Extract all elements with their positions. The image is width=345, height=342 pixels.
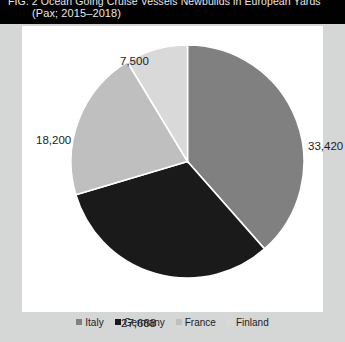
chart-title-line-2: (Pax; 2015–2018) [32, 7, 121, 20]
legend-label-finland: Finland [236, 317, 269, 328]
slice-label-france: 18,200 [36, 134, 71, 147]
pie-graphic [71, 45, 304, 278]
chart-panel: 7,500 33,420 18,200 27,688 [22, 26, 323, 312]
chart-title-line-1: FIG. 2 Ocean Going Cruise Vessels Newbui… [8, 0, 345, 7]
pie-chart: 7,500 33,420 18,200 27,688 [22, 26, 323, 312]
legend-label-france: France [185, 317, 216, 328]
slice-label-italy: 33,420 [308, 140, 343, 153]
pie-svg [71, 45, 304, 278]
legend-label-germany: Germany [124, 317, 165, 328]
chart-title-band: FIG. 2 Ocean Going Cruise Vessels Newbui… [0, 0, 345, 24]
legend-item-france[interactable]: France [176, 317, 216, 328]
legend-label-italy: Italy [85, 317, 103, 328]
legend-item-finland[interactable]: Finland [227, 317, 269, 328]
legend-swatch-germany [115, 319, 121, 325]
legend-item-italy[interactable]: Italy [76, 317, 103, 328]
legend-swatch-france [176, 319, 182, 325]
legend-swatch-finland [227, 319, 233, 325]
chart-legend: ItalyGermanyFranceFinland [22, 314, 323, 330]
legend-swatch-italy [76, 319, 82, 325]
slice-label-finland: 7,500 [120, 55, 149, 68]
legend-item-germany[interactable]: Germany [115, 317, 165, 328]
